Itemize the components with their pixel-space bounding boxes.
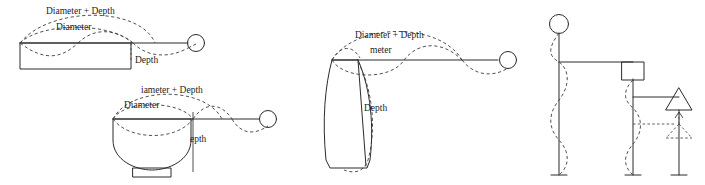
figure-4-stem-schematic (550, 15, 693, 176)
lower-lobe-arc-3 (133, 43, 188, 55)
lower-lobe-arc-3 (462, 60, 508, 74)
figure-3-label-depth: Depth (364, 103, 387, 113)
figure-2-hemispherical-bowl: iameter + Depth Diameter epth (113, 85, 277, 177)
square-marker (622, 62, 644, 80)
terminal-circle (500, 52, 517, 69)
figure-2-label-diameter-plus-depth: iameter + Depth (141, 85, 203, 95)
lower-lobe-arc-1 (20, 43, 78, 56)
figure-1-shallow-rectangular-vessel: Diameter + Depth Diameter Depth (20, 6, 205, 69)
stem-circle-group (550, 15, 634, 176)
terminal-circle (260, 111, 277, 128)
vessel-outline-jar (324, 60, 371, 168)
lower-lobe-arc-2 (404, 46, 462, 60)
figure-3-label-diameter-plus-depth: Diameter + Depth (355, 30, 424, 40)
figure-3-tall-jar: Diameter + Depth meter Depth (324, 30, 516, 172)
diagram-canvas: Diameter + Depth Diameter Depth (0, 0, 705, 185)
ring-foot (133, 168, 171, 177)
terminal-circle (188, 35, 205, 52)
figure-3-label-diameter: meter (370, 45, 392, 55)
figure-sheet: Diameter + Depth Diameter Depth (0, 0, 705, 185)
lower-lobe-arc-4 (188, 44, 196, 48)
vessel-outline-rect (20, 43, 131, 69)
circle-marker (550, 15, 569, 34)
figure-2-label-diameter: Diameter (124, 100, 160, 110)
stem-triangle-group (633, 88, 692, 175)
lower-lobe-arc-2 (78, 32, 133, 43)
figure-2-label-depth: epth (190, 134, 207, 144)
vessel-outline-bowl (113, 119, 191, 170)
triangle-marker (666, 88, 692, 110)
depth-sweep (344, 62, 373, 172)
stem-square-group (622, 62, 679, 175)
figure-1-label-diameter-plus-depth: Diameter + Depth (46, 6, 115, 16)
figure-1-label-diameter: Diameter (56, 22, 92, 32)
figure-1-label-depth: Depth (135, 55, 158, 65)
lower-lobe-arc-1 (113, 119, 193, 136)
lower-lobe-arc-1 (332, 60, 404, 75)
